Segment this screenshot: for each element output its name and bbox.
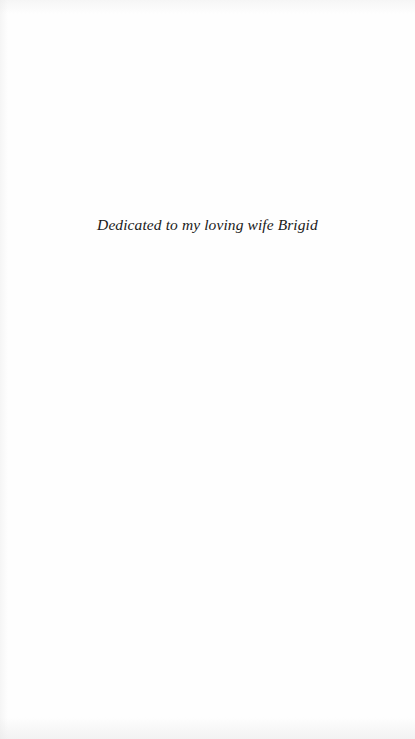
scan-edge-left [0,0,8,739]
scan-edge-top [0,0,415,14]
book-page: Dedicated to my loving wife Brigid [0,0,415,739]
dedication-text: Dedicated to my loving wife Brigid [0,215,415,235]
scan-edge-bottom [0,717,415,739]
